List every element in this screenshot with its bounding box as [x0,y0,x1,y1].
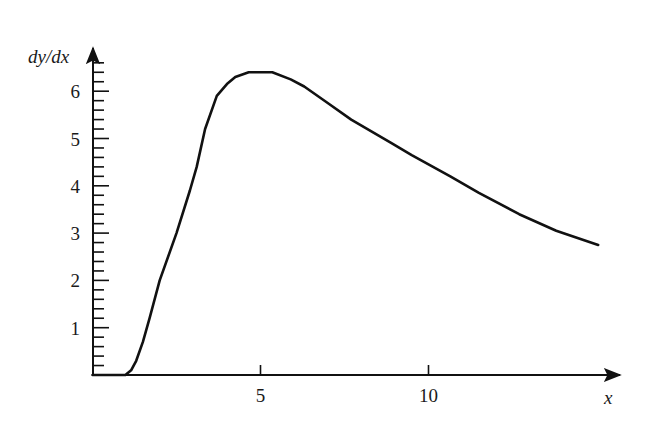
dydx-curve [93,72,599,375]
chart: 123456 510 dy/dx x [0,0,647,423]
y-axis-label: dy/dx [28,46,70,67]
x-ticks: 510 [256,365,438,406]
x-tick-label: 10 [419,385,438,406]
y-tick-label: 4 [71,176,81,197]
y-ticks: 123456 [71,63,110,366]
y-tick-label: 3 [71,223,81,244]
y-tick-label: 1 [71,318,81,339]
x-axis-label: x [603,387,613,408]
y-tick-label: 2 [71,270,81,291]
y-tick-label: 5 [71,129,81,150]
y-tick-label: 6 [71,81,81,102]
x-tick-label: 5 [256,385,266,406]
axes [93,48,620,375]
